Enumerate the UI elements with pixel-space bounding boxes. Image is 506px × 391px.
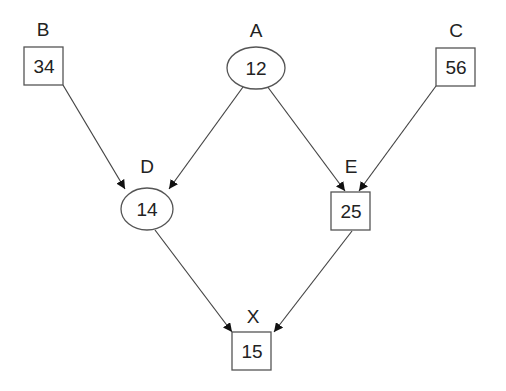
node-label: D <box>140 156 154 177</box>
node-label: A <box>250 20 263 41</box>
node-value: 34 <box>33 56 55 77</box>
node-label: X <box>247 306 260 327</box>
node-x: X 15 <box>232 306 271 370</box>
node-b: B 34 <box>24 19 63 85</box>
node-e: E 25 <box>331 156 370 230</box>
node-label: C <box>449 20 463 41</box>
edge-e-to-x <box>274 231 352 332</box>
node-value: 25 <box>340 201 361 222</box>
node-label: B <box>37 19 50 40</box>
edge-a-to-e <box>267 86 345 191</box>
edge-d-to-x <box>155 230 232 332</box>
node-value: 12 <box>245 58 266 79</box>
node-d: D 14 <box>121 156 173 230</box>
edge-a-to-d <box>169 87 243 189</box>
node-a: A 12 <box>227 20 285 89</box>
node-c: C 56 <box>436 20 475 86</box>
node-value: 15 <box>241 341 262 362</box>
node-value: 14 <box>136 199 158 220</box>
node-value: 56 <box>445 57 466 78</box>
node-label: E <box>345 156 358 177</box>
graph-canvas: B 34 A 12 C 56 D 14 E 25 X 15 <box>0 0 506 391</box>
edge-c-to-e <box>359 86 436 191</box>
edge-b-to-d <box>63 85 125 189</box>
